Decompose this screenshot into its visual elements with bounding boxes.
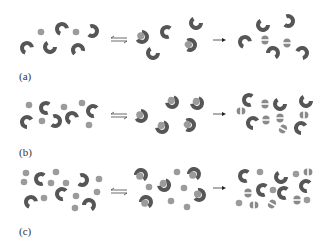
substrate (48, 180, 55, 187)
enzyme-substrate-complex (187, 167, 201, 180)
enzyme (294, 121, 307, 135)
enzyme (236, 167, 253, 185)
substrate (21, 179, 28, 186)
substrate (304, 197, 311, 204)
enzyme (236, 33, 253, 51)
product-fragments (267, 198, 278, 209)
product-fragments (261, 100, 268, 109)
enzyme (85, 103, 100, 119)
enzyme (240, 91, 257, 109)
equilibrium-arrow (111, 112, 127, 119)
enzyme (266, 46, 280, 59)
enzyme (275, 184, 292, 202)
forward-arrow (213, 112, 226, 116)
product-fragments (304, 168, 313, 175)
enzyme (54, 186, 69, 202)
enzyme (32, 170, 49, 188)
enzyme (189, 17, 203, 30)
enzyme-substrate-complex (154, 118, 171, 136)
panel-c-complexes (134, 167, 207, 210)
substrate (96, 176, 103, 183)
enzyme-substrate-complex (135, 109, 148, 123)
substrate (41, 195, 48, 202)
substrate (293, 171, 300, 178)
equilibrium-arrow (111, 188, 127, 195)
product-fragments (300, 111, 309, 118)
panel-a-reactants (18, 20, 101, 59)
enzyme (20, 115, 33, 129)
product-fragments (244, 189, 251, 198)
enzyme (47, 112, 64, 130)
enzyme-substrate-complex (164, 93, 181, 111)
panel-a-products (236, 12, 311, 61)
product-fragments (250, 201, 259, 208)
substrate (72, 205, 79, 212)
enzyme-kinetics-diagram (0, 0, 331, 240)
enzyme (246, 116, 259, 130)
substrate (257, 169, 264, 176)
panel-a-complexes (136, 17, 203, 60)
product-fragments (237, 107, 246, 114)
enzyme (82, 198, 96, 211)
product-fragments (293, 196, 300, 205)
enzyme-substrate-complex (134, 168, 148, 181)
substrate (63, 180, 70, 187)
enzyme (63, 109, 80, 127)
substrate (26, 102, 33, 109)
panel-b (20, 91, 313, 136)
enzyme (256, 19, 270, 32)
panel-c-products (236, 167, 314, 209)
enzyme (293, 44, 311, 61)
enzyme (273, 98, 287, 111)
enzyme (43, 41, 57, 54)
enzyme-substrate-complex (180, 115, 198, 134)
enzyme (37, 99, 54, 117)
panel-b-products (237, 91, 313, 135)
substrate (146, 184, 153, 191)
enzyme (18, 39, 35, 57)
substrate (53, 169, 60, 176)
substrate (174, 169, 181, 176)
enzyme-substrate-complex (181, 35, 199, 54)
substrate (184, 204, 191, 211)
substrate (79, 100, 86, 107)
enzyme-substrate-complex (139, 195, 153, 208)
substrate (181, 185, 188, 192)
panel-b-reactants (20, 99, 100, 129)
forward-arrow (213, 186, 226, 190)
enzyme (22, 193, 39, 211)
enzyme (298, 178, 313, 194)
substrate (168, 198, 175, 205)
product-fragments (276, 114, 283, 123)
panel-label-b: (b) (19, 146, 32, 158)
substrate (236, 200, 243, 207)
enzyme (280, 12, 297, 30)
enzyme (254, 181, 271, 199)
enzyme (158, 23, 175, 41)
panel-label-a: (a) (19, 70, 31, 82)
panel-b-complexes (135, 93, 206, 136)
enzyme-substrate-complex (156, 176, 173, 194)
panel-c-reactants (21, 169, 103, 212)
substrate (86, 122, 93, 129)
product-fragments (262, 116, 269, 125)
enzyme (299, 95, 313, 108)
enzyme-substrate-complex (136, 30, 149, 44)
panel-a (18, 12, 311, 61)
panel-c (21, 167, 314, 211)
enzyme-substrate-complex (189, 94, 206, 112)
enzyme-substrate-complex (192, 187, 207, 203)
substrate (73, 193, 80, 200)
product-fragments (278, 123, 289, 134)
enzyme (74, 171, 91, 189)
equilibrium-arrow (111, 36, 127, 43)
substrate (270, 187, 277, 194)
substrate (38, 29, 45, 36)
enzyme (274, 171, 288, 184)
substrate (23, 170, 30, 177)
product-fragments (261, 36, 268, 45)
enzyme (146, 47, 160, 60)
panel-label-c: (c) (19, 225, 31, 237)
enzyme (84, 22, 101, 40)
forward-arrow (213, 38, 226, 42)
